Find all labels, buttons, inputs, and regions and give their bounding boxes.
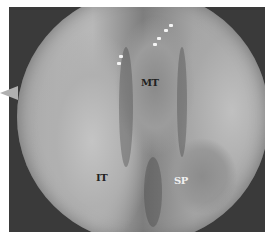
- label-middle-turbinate: MT: [141, 77, 159, 88]
- label-septum: SP: [174, 175, 188, 186]
- specular-highlight: [164, 29, 168, 32]
- endoscope-frame: [9, 7, 265, 232]
- inferior-meatus-shadow: [144, 157, 162, 227]
- specular-highlight: [169, 24, 173, 27]
- specular-highlight: [153, 43, 157, 46]
- specular-highlight: [157, 37, 161, 40]
- label-inferior-turbinate: IT: [96, 172, 107, 183]
- specular-highlight: [117, 62, 121, 65]
- endoscopic-view: [17, 7, 265, 232]
- septum-edge-shadow: [177, 47, 187, 157]
- middle-meatus-shadow: [119, 47, 133, 167]
- specular-highlight: [119, 55, 123, 58]
